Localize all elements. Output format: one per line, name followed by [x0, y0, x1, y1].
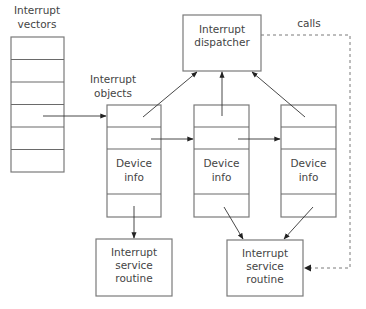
interrupt-dispatcher-box: Interrupt dispatcher	[183, 15, 261, 71]
isr-label-line1: Interrupt	[242, 247, 288, 259]
objects-label-line2: objects	[94, 87, 132, 99]
calls-label: calls	[297, 17, 321, 29]
object1-to-dispatcher-arrow	[143, 72, 197, 117]
isr-label-line1: Interrupt	[111, 246, 157, 258]
device-info-label: Device	[116, 157, 152, 169]
connector-arrows	[43, 72, 313, 239]
dispatcher-label-line2: dispatcher	[194, 36, 250, 48]
device-info-label: Device	[204, 157, 240, 169]
device-info-label: info	[212, 171, 232, 183]
interrupt-vector-table	[11, 37, 64, 172]
interrupt-dispatch-diagram: Interrupt vectors Interrupt objects Inte…	[0, 0, 366, 309]
device-info-label: Device	[291, 157, 327, 169]
interrupt-object-1: Device info	[107, 105, 161, 217]
objects-label-line1: Interrupt	[90, 73, 136, 85]
vectors-label-line2: vectors	[18, 18, 57, 30]
device-info-label: info	[299, 171, 319, 183]
isr-label-line2: service	[115, 259, 153, 271]
calls-arrowhead-icon	[304, 265, 311, 272]
object3-to-dispatcher-arrow	[252, 72, 305, 117]
interrupt-service-routine-2: Interrupt service routine	[227, 240, 303, 296]
interrupt-object-2: Device info	[194, 105, 249, 217]
vectors-label-line1: Interrupt	[14, 4, 60, 16]
isr-label-line3: routine	[115, 272, 152, 284]
dispatcher-label-line1: Interrupt	[199, 23, 245, 35]
device-info-label: info	[124, 171, 144, 183]
interrupt-object-3: Device info	[281, 105, 336, 217]
isr-label-line2: service	[246, 260, 284, 272]
interrupt-service-routine-1: Interrupt service routine	[96, 239, 172, 296]
isr-label-line3: routine	[246, 273, 283, 285]
